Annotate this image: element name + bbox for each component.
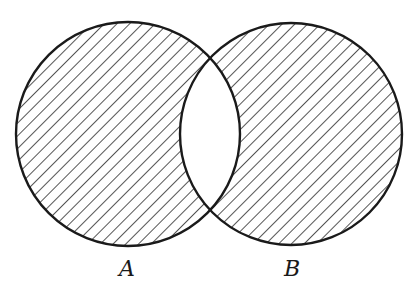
set-a-label: A — [117, 256, 135, 281]
venn-diagram: A B — [0, 0, 410, 288]
set-b-label: B — [283, 256, 300, 281]
